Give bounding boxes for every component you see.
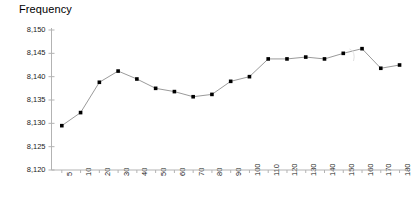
data-point-marker [154, 87, 158, 91]
data-point-marker [285, 57, 289, 61]
data-point-marker [135, 77, 139, 81]
data-point-marker [360, 47, 364, 51]
data-point-marker [323, 57, 327, 61]
data-point-marker [98, 80, 102, 84]
data-line [62, 49, 400, 126]
data-point-marker [60, 124, 64, 128]
data-point-marker [210, 93, 214, 97]
data-point-marker [191, 95, 195, 99]
data-point-marker [379, 66, 383, 70]
axes [52, 28, 409, 170]
data-point-marker [266, 57, 270, 61]
data-point-marker [304, 55, 308, 59]
plot-area [0, 0, 416, 202]
data-point-marker [79, 111, 83, 115]
data-markers [60, 47, 401, 128]
data-point-marker [398, 63, 402, 67]
data-point-marker [341, 52, 345, 56]
data-point-marker [116, 69, 120, 73]
data-point-marker [173, 90, 177, 94]
data-point-marker [229, 80, 233, 84]
data-point-marker [248, 75, 252, 79]
frequency-line-chart: Frequency 8,1508,1458,1408,1358,1308,125… [0, 0, 416, 202]
